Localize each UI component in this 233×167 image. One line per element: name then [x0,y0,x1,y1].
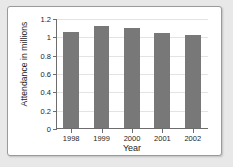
bar-chart: Attendance in millions 00.20.40.60.811.2… [8,7,221,155]
bar-1999 [94,26,110,128]
y-tick-mark [53,111,57,112]
x-tick-label: 1999 [93,134,110,143]
x-tick-label: 1998 [63,134,80,143]
y-tick-label: 1.2 [41,15,51,24]
y-axis-title: Attendance in millions [19,9,29,119]
x-tick-mark [132,129,133,133]
y-tick-label: 0.4 [41,88,51,97]
chart-figure-frame: Attendance in millions 00.20.40.60.811.2… [7,6,222,156]
y-tick-label: 1 [47,33,51,42]
x-tick-label: 2000 [124,134,141,143]
x-tick-mark [102,129,103,133]
y-tick-label: 0.2 [41,106,51,115]
x-tick-mark [162,129,163,133]
y-tick-mark [53,19,57,20]
x-tick-label: 2002 [184,134,201,143]
y-tick-mark [53,56,57,57]
y-tick-mark [53,129,57,130]
y-tick-label: 0 [47,125,51,134]
gridline [56,19,208,20]
y-tick-mark [53,74,57,75]
x-axis-title: Year [56,143,208,153]
bar-1998 [63,32,79,128]
y-tick-label: 0.8 [41,51,51,60]
x-tick-mark [71,129,72,133]
bar-2001 [154,33,170,128]
plot-area: 00.20.40.60.811.2 19981999200020012002 [56,19,208,129]
y-tick-label: 0.6 [41,70,51,79]
y-tick-mark [53,92,57,93]
x-tick-label: 2001 [154,134,171,143]
bar-2002 [185,35,201,128]
bar-2000 [124,28,140,128]
x-tick-mark [193,129,194,133]
y-tick-mark [53,37,57,38]
